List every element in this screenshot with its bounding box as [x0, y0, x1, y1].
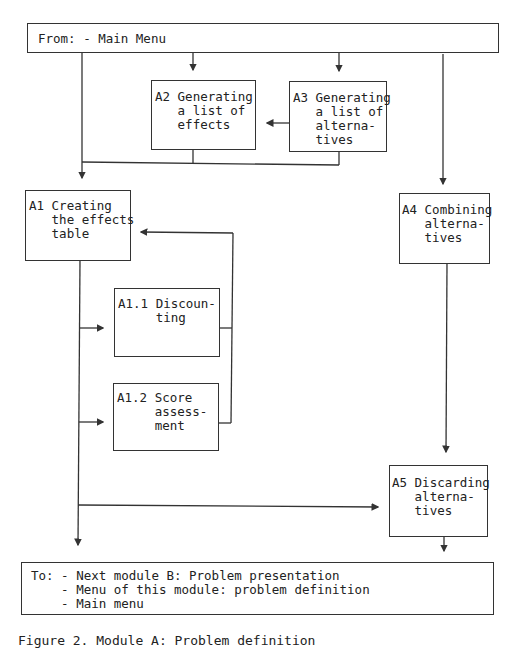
a1-line-1: A1 Creating: [29, 199, 112, 213]
figure-caption: Figure 2. Module A: Problem definition: [18, 633, 315, 648]
a5-line-3: tives: [392, 504, 452, 518]
box-a1: A1 Creating the effects table: [25, 190, 131, 261]
a3-line-2: a list of: [293, 105, 383, 119]
a11-line-2: ting: [118, 311, 186, 325]
to-line-2: - Menu of this module: problem definitio…: [31, 583, 370, 597]
a12-line-1: A1.2 Score: [117, 391, 192, 405]
to-box: To: - Next module B: Problem presentatio…: [21, 562, 494, 615]
a4-line-1: A4 Combining: [402, 203, 492, 217]
a1-line-3: table: [29, 227, 89, 241]
a4-line-2: alterna-: [402, 217, 485, 231]
box-a5: A5 Discarding alterna- tives: [389, 465, 488, 537]
a3-line-4: tives: [293, 133, 353, 147]
a12-line-2: assess-: [117, 405, 207, 419]
a12-line-3: ment: [117, 419, 185, 433]
a3-line-1: A3 Generating: [293, 91, 391, 105]
a2-line-1: A2 Generating: [155, 90, 253, 104]
from-box: From: - Main Menu: [27, 23, 499, 53]
from-label: From: - Main Menu: [38, 32, 166, 46]
a11-line-1: A1.1 Discoun-: [118, 297, 216, 311]
to-line-3: - Main menu: [31, 597, 144, 611]
box-a1-2: A1.2 Score assess- ment: [113, 383, 219, 451]
a5-line-1: A5 Discarding: [392, 476, 490, 490]
box-a3: A3 Generating a list of alterna- tives: [289, 81, 387, 152]
a5-line-2: alterna-: [392, 490, 475, 504]
box-a1-1: A1.1 Discoun- ting: [114, 288, 220, 357]
a3-line-3: alterna-: [293, 119, 376, 133]
box-a4: A4 Combining alterna- tives: [399, 193, 490, 264]
a2-line-3: effects: [155, 118, 230, 132]
a2-line-2: a list of: [155, 104, 245, 118]
box-a2: A2 Generating a list of effects: [151, 80, 256, 150]
a4-line-3: tives: [402, 231, 462, 245]
a1-line-2: the effects: [29, 213, 134, 227]
to-line-1: To: - Next module B: Problem presentatio…: [31, 569, 340, 583]
